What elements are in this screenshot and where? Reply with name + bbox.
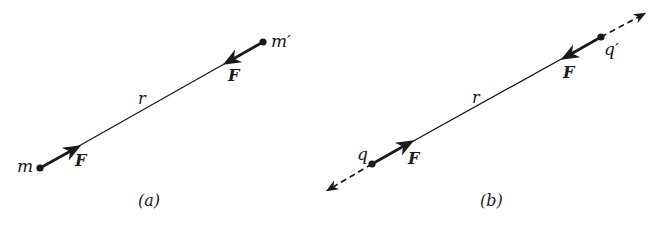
panel-a: m m′ F F r (a): [17, 31, 291, 210]
label-separation: r: [138, 89, 147, 108]
dashed-extension-right: [601, 14, 644, 37]
label-mass-left: m: [17, 156, 33, 176]
panel-b: q q′ F F r (b): [328, 14, 644, 210]
force-arrow-right: [226, 42, 263, 63]
force-arrow-right: [564, 37, 601, 58]
mass-dot-right: [259, 38, 266, 45]
force-arrow-left: [40, 147, 78, 168]
label-force-right: F: [227, 66, 241, 85]
force-arrow-left: [372, 142, 411, 164]
label-charge-left: q: [357, 144, 368, 164]
label-force-left: F: [407, 149, 421, 168]
label-mass-right: m′: [271, 31, 291, 51]
label-separation: r: [472, 88, 481, 107]
mass-dot-left: [36, 164, 43, 171]
charge-dot-left: [368, 160, 375, 167]
caption-b: (b): [480, 191, 503, 210]
label-charge-right: q′: [604, 39, 619, 59]
label-force-right: F: [562, 63, 576, 82]
label-force-left: F: [74, 151, 88, 170]
caption-a: (a): [138, 191, 160, 210]
dashed-extension-left: [328, 164, 372, 190]
force-diagram: m m′ F F r (a) q q′ F F r (b): [0, 0, 662, 225]
